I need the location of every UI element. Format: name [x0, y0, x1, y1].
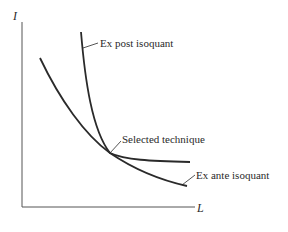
x-axis-label: L [196, 201, 204, 215]
selected-technique-label: Selected technique [122, 133, 205, 145]
y-axis-label: I [12, 9, 18, 23]
ex-ante-label: Ex ante isoquant [196, 169, 269, 181]
ex-post-leader [83, 43, 98, 48]
isoquant-diagram: I L Ex post isoquant Selected technique … [0, 0, 288, 232]
ex-ante-leader [182, 175, 195, 185]
selected-leader [110, 141, 121, 153]
ex-post-label: Ex post isoquant [100, 37, 173, 49]
ex-ante-isoquant-curve [40, 58, 187, 186]
